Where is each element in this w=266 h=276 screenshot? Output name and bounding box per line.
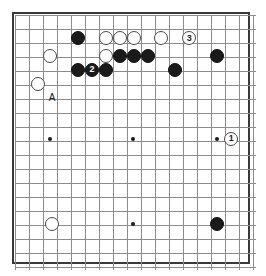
star-point-center-lower bbox=[131, 222, 135, 226]
board-point-label-a: A bbox=[45, 93, 59, 103]
annotation-layer: A bbox=[0, 0, 266, 276]
star-point-left bbox=[48, 137, 52, 141]
star-point-center-upper bbox=[131, 137, 135, 141]
go-board-figure: 321 A bbox=[0, 0, 266, 276]
star-point-right bbox=[215, 137, 219, 141]
